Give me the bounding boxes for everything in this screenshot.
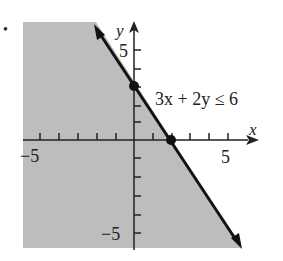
x-intercept-point	[166, 135, 176, 145]
x-axis-label: x	[248, 120, 257, 139]
y-tick-label-5: 5	[119, 41, 128, 61]
x-tick-label-5: 5	[221, 147, 230, 167]
inequality-graph: • y x 5 −5 −5 5 3x + 2y ≤ 6	[0, 0, 283, 261]
y-tick-label-neg5: −5	[101, 224, 120, 244]
x-tick-label-neg5: −5	[20, 146, 39, 166]
y-axis-label: y	[114, 21, 124, 40]
y-intercept-point	[129, 81, 139, 91]
bullet: •	[3, 22, 8, 37]
inequality-label: 3x + 2y ≤ 6	[155, 89, 238, 109]
